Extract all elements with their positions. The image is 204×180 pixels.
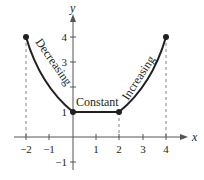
y-tick-label: −1 [55, 156, 67, 168]
constant-label: Constant [76, 95, 119, 109]
point-4-4 [163, 34, 169, 40]
x-axis-arrow-icon [180, 134, 188, 140]
y-axis-label: y [69, 1, 76, 15]
y-tick-label: 1 [62, 106, 68, 118]
function-graph: −2 −1 1 2 3 4 −1 1 3 4 x y Decreasing Co… [0, 0, 204, 180]
x-tick-label: 1 [93, 143, 99, 155]
x-tick-label: 3 [140, 143, 146, 155]
point-neg2-4 [23, 34, 29, 40]
y-tick-label: 4 [62, 31, 68, 43]
x-tick-label: −1 [43, 143, 55, 155]
x-axis-label: x [191, 130, 198, 144]
point-0-1 [70, 109, 76, 115]
point-2-1 [116, 109, 122, 115]
increasing-label: Increasing [119, 53, 158, 103]
x-tick-label: 2 [116, 143, 122, 155]
x-tick-label: 4 [163, 143, 169, 155]
decreasing-label: Decreasing [33, 36, 75, 88]
x-tick-label: −2 [20, 143, 32, 155]
y-axis-arrow-icon [70, 14, 76, 22]
